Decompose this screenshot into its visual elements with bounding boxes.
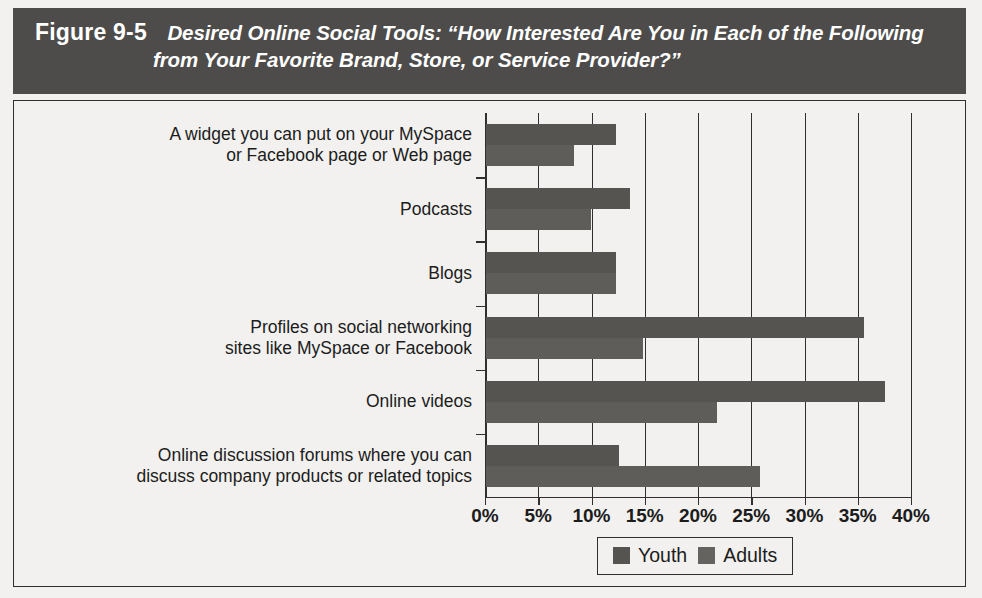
category-label-line: Profiles on social networking [225, 317, 472, 338]
chart-legend: YouthAdults [597, 537, 793, 575]
x-tick-label: 15% [626, 505, 664, 527]
figure-header-line-2: from Your Favorite Brand, Store, or Serv… [35, 48, 948, 72]
category-label-line: Blogs [428, 263, 472, 284]
legend-swatch-icon [613, 547, 630, 564]
x-tick-label: 5% [525, 505, 552, 527]
gridline [911, 113, 912, 498]
category-label: Online videos [366, 391, 472, 412]
category-label: Online discussion forums where you candi… [136, 445, 472, 487]
category-label-line: A widget you can put on your MySpace [169, 124, 472, 145]
bar-adults [486, 402, 717, 423]
gridline [592, 113, 593, 498]
x-axis-tick [485, 498, 486, 505]
x-axis-tick [911, 498, 912, 505]
x-axis-tick [645, 498, 646, 505]
x-tick-label: 20% [679, 505, 717, 527]
figure-container: Figure 9-5 Desired Online Social Tools: … [0, 0, 982, 598]
figure-number: Figure 9-5 [35, 19, 147, 45]
x-tick-label: 25% [732, 505, 770, 527]
x-tick-label: 40% [892, 505, 930, 527]
x-axis-tick [858, 498, 859, 505]
bar-youth [486, 188, 630, 209]
x-axis-tick [805, 498, 806, 505]
category-label: Profiles on social networkingsites like … [225, 317, 472, 359]
figure-caption-line-1: Desired Online Social Tools: “How Intere… [167, 21, 923, 44]
category-label-line: Podcasts [400, 199, 472, 220]
bar-adults [486, 466, 760, 487]
y-axis-tick [476, 434, 485, 436]
legend-label: Youth [638, 544, 687, 567]
x-axis-tick [698, 498, 699, 505]
x-tick-label: 10% [572, 505, 610, 527]
category-label-line: sites like MySpace or Facebook [225, 338, 472, 359]
bar-youth [486, 124, 616, 145]
gridline [858, 113, 859, 498]
gridline [538, 113, 539, 498]
plot-area [485, 113, 911, 498]
category-label-line: discuss company products or related topi… [136, 466, 472, 487]
bar-adults [486, 145, 574, 166]
x-axis-tick [751, 498, 752, 505]
legend-item[interactable]: Youth [613, 544, 687, 567]
category-label-line: or Facebook page or Web page [169, 145, 472, 166]
bar-youth [486, 381, 885, 402]
legend-swatch-icon [698, 547, 715, 564]
y-axis-line [485, 113, 487, 498]
bar-adults [486, 273, 616, 294]
bar-adults [486, 338, 643, 359]
gridline [698, 113, 699, 498]
category-label-line: Online videos [366, 391, 472, 412]
bar-adults [486, 209, 591, 230]
category-label: Podcasts [400, 199, 472, 220]
chart-panel: A widget you can put on your MySpaceor F… [13, 100, 966, 587]
gridline [751, 113, 752, 498]
y-axis-tick [476, 177, 485, 179]
category-label: Blogs [428, 263, 472, 284]
x-tick-label: 35% [839, 505, 877, 527]
bar-youth [486, 317, 864, 338]
legend-item[interactable]: Adults [698, 544, 777, 567]
category-label-column: A widget you can put on your MySpaceor F… [34, 113, 482, 498]
x-axis-tick-labels: 0%5%10%15%20%25%30%35%40% [485, 505, 911, 531]
x-tick-label: 0% [471, 505, 498, 527]
x-tick-label: 30% [785, 505, 823, 527]
figure-caption-line-2: from Your Favorite Brand, Store, or Serv… [153, 48, 681, 71]
category-label-line: Online discussion forums where you can [136, 445, 472, 466]
gridline [645, 113, 646, 498]
bar-youth [486, 252, 616, 273]
legend-label: Adults [723, 544, 777, 567]
category-label: A widget you can put on your MySpaceor F… [169, 124, 472, 166]
x-axis-tick [538, 498, 539, 505]
x-axis-tick [592, 498, 593, 505]
figure-header: Figure 9-5 Desired Online Social Tools: … [13, 8, 966, 94]
y-axis-tick [476, 370, 485, 372]
y-axis-tick [476, 241, 485, 243]
gridline [805, 113, 806, 498]
y-axis-tick [476, 306, 485, 308]
figure-header-line-1: Figure 9-5 Desired Online Social Tools: … [35, 19, 948, 46]
bar-youth [486, 445, 619, 466]
